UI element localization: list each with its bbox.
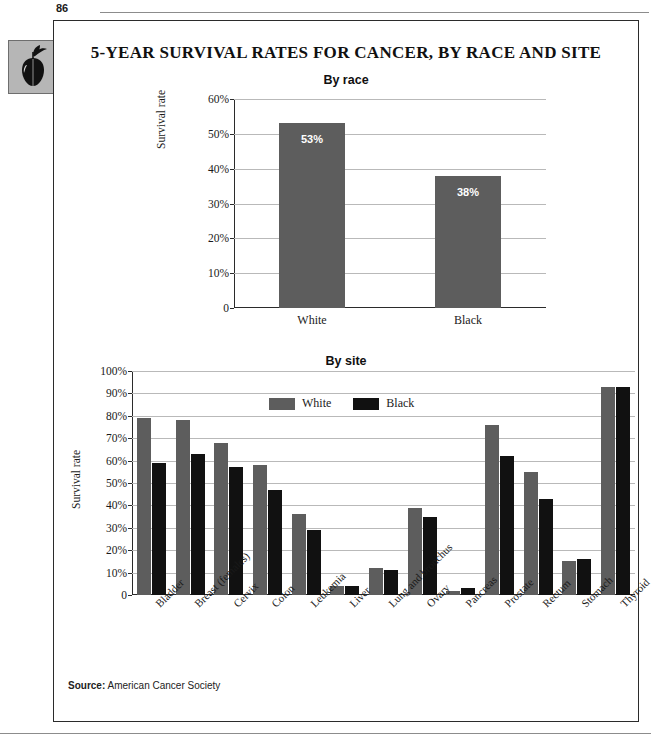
gridline (132, 550, 635, 551)
bar-black-prostate (500, 456, 514, 595)
chart-by-race-xcat-black: Black (390, 313, 546, 328)
y-axis-tick-mark (230, 169, 234, 170)
y-axis-tick-mark (128, 416, 132, 417)
content-frame: 5-YEAR SURVIVAL RATES FOR CANCER, BY RAC… (53, 20, 639, 722)
y-axis-tick-label: 20% (106, 544, 127, 556)
legend-label: Black (386, 396, 414, 411)
y-axis-tick-label: 40% (106, 499, 127, 511)
chart-by-race-title: By race (54, 73, 638, 87)
bar-black-thyroid (616, 387, 630, 595)
y-axis-tick-mark (128, 528, 132, 529)
bar-black: 38% (435, 176, 501, 308)
gridline (132, 371, 635, 372)
gridline (132, 505, 635, 506)
y-axis-tick-mark (128, 505, 132, 506)
bar-white: 53% (279, 123, 345, 308)
y-axis-tick-label: 30% (208, 198, 229, 210)
y-axis-tick-mark (128, 438, 132, 439)
chart-by-site-legend: WhiteBlack (269, 396, 414, 411)
y-axis-tick-label: 60% (208, 93, 229, 105)
bar-black-bladder (152, 463, 166, 595)
y-axis-tick-label: 90% (106, 387, 127, 399)
bar-white-thyroid (601, 387, 615, 595)
y-axis-tick-mark (230, 99, 234, 100)
chart-by-race-plot-area: 010%20%30%40%50%60%53%38% (234, 99, 546, 308)
y-axis-tick-label: 10% (106, 567, 127, 579)
y-axis-tick-mark (128, 550, 132, 551)
y-axis-tick-mark (230, 134, 234, 135)
bar-black-breast-females (191, 454, 205, 595)
y-axis-tick-label: 50% (106, 477, 127, 489)
gridline (132, 483, 635, 484)
apple-icon (8, 40, 57, 94)
y-axis-tick-mark (128, 393, 132, 394)
gridline (234, 99, 546, 100)
bar-black-colon (268, 490, 282, 595)
gridline (132, 461, 635, 462)
bar-value-label: 38% (435, 186, 501, 198)
legend-item-white: White (269, 396, 331, 411)
gridline (132, 438, 635, 439)
y-axis-tick-mark (128, 461, 132, 462)
chart-by-site-y-axis-label: Survival rate (70, 450, 82, 509)
bar-white-breast-females (176, 420, 190, 595)
y-axis-tick-label: 60% (106, 455, 127, 467)
page-number: 86 (56, 2, 68, 14)
chart-by-race-y-axis-label: Survival rate (155, 90, 167, 149)
source-value: American Cancer Society (107, 680, 220, 691)
chart-by-site-title: By site (54, 354, 638, 368)
source-label: Source: (68, 680, 105, 691)
header-rule (100, 12, 649, 13)
bar-black-leukemia (307, 530, 321, 595)
y-axis-tick-label: 100% (100, 365, 127, 377)
y-axis-tick-mark (128, 483, 132, 484)
bar-white-colon (253, 465, 267, 595)
y-axis-tick-label: 80% (106, 410, 127, 422)
gridline (132, 416, 635, 417)
y-axis-tick-mark (128, 573, 132, 574)
black-series-swatch (353, 398, 379, 410)
chart-by-race-xcat-white: White (234, 313, 390, 328)
y-axis-tick-mark (230, 308, 234, 309)
bar-black-rectum (539, 499, 553, 595)
y-axis-tick-label: 0 (121, 589, 127, 601)
y-axis-tick-label: 40% (208, 163, 229, 175)
y-axis-tick-label: 10% (208, 267, 229, 279)
y-axis-tick-mark (230, 273, 234, 274)
gridline (132, 393, 635, 394)
y-axis-tick-mark (230, 204, 234, 205)
white-series-swatch (269, 398, 295, 410)
page-title: 5-YEAR SURVIVAL RATES FOR CANCER, BY RAC… (54, 43, 638, 63)
legend-label: White (302, 396, 331, 411)
gridline (132, 528, 635, 529)
y-axis-tick-mark (230, 238, 234, 239)
bar-white-bladder (137, 418, 151, 595)
bar-white-leukemia (292, 514, 306, 595)
legend-item-black: Black (353, 396, 414, 411)
y-axis-tick-label: 70% (106, 432, 127, 444)
source-line: Source: American Cancer Society (68, 680, 220, 691)
y-axis-tick-mark (128, 595, 132, 596)
y-axis-tick-mark (128, 371, 132, 372)
y-axis-tick-label: 30% (106, 522, 127, 534)
bar-value-label: 53% (279, 133, 345, 145)
bar-white-prostate (485, 425, 499, 595)
y-axis-tick-label: 0 (223, 302, 229, 314)
footer-rule (0, 733, 651, 734)
y-axis-tick-label: 50% (208, 128, 229, 140)
y-axis-tick-label: 20% (208, 232, 229, 244)
